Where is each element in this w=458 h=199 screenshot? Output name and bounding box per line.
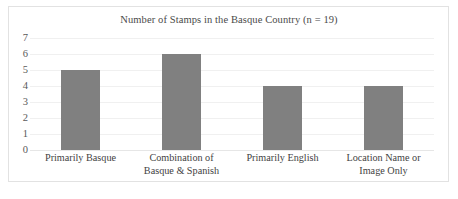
category-label-line2: Basque & Spanish [131, 165, 232, 178]
category-label-line1: Combination of [149, 152, 213, 163]
bar-1 [61, 70, 100, 150]
bar-4 [364, 86, 403, 150]
category-label-2: Combination ofBasque & Spanish [131, 152, 232, 182]
category-label-line2: Image Only [333, 165, 434, 178]
y-tick-label-7: 7 [6, 33, 28, 44]
bar-3 [263, 86, 302, 150]
bars-layer [30, 38, 434, 150]
gridline-0 [30, 150, 434, 151]
y-axis: 76543210 [0, 38, 28, 150]
y-tick-label-6: 6 [6, 49, 28, 60]
category-label-1: Primarily Basque [30, 152, 131, 182]
y-tick-label-0: 0 [6, 145, 28, 156]
category-label-line1: Primarily Basque [45, 152, 116, 163]
x-axis-category-labels: Primarily BasqueCombination ofBasque & S… [30, 152, 434, 182]
category-label-3: Primarily English [232, 152, 333, 182]
category-label-line1: Location Name or [346, 152, 420, 163]
bar-2 [162, 54, 201, 150]
bar-chart-figure: Number of Stamps in the Basque Country (… [0, 0, 458, 199]
y-tick-label-2: 2 [6, 113, 28, 124]
category-label-line1: Primarily English [246, 152, 318, 163]
y-tick-label-1: 1 [6, 129, 28, 140]
y-tick-label-5: 5 [6, 65, 28, 76]
y-tick-label-4: 4 [6, 81, 28, 92]
category-label-4: Location Name orImage Only [333, 152, 434, 182]
chart-title: Number of Stamps in the Basque Country (… [0, 14, 458, 25]
y-tick-label-3: 3 [6, 97, 28, 108]
